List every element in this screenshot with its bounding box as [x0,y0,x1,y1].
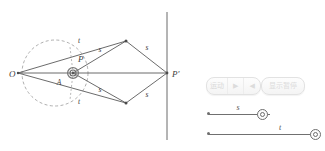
point-label-O: O [9,69,16,79]
play-forward-icon[interactable]: ▶ [228,78,244,94]
edge-label-t-0: t [78,36,81,45]
canvas-stage: OPP′ttssssA 运动 ▶ ◀ 显示暂停 s t [0,0,325,151]
slider-s-label: s [236,103,239,112]
vertex-dot-upper [125,40,128,43]
slider-t-handle[interactable] [310,129,321,140]
slider-s-handle[interactable] [257,109,268,120]
control-panel: 运动 ▶ ◀ 显示暂停 s t [203,74,325,151]
edge-label-s-5: s [146,90,149,99]
point-P-center-dot[interactable] [72,72,75,75]
animate-button-label[interactable]: 运动 [207,78,228,94]
slider-t-track[interactable] [208,134,320,135]
segment-O-to-lower-vertex [18,73,126,103]
edge-label-t-1: t [78,97,81,106]
edge-label-s-4: s [146,43,149,52]
animate-button-group[interactable]: 运动 ▶ ◀ [206,77,261,95]
vertex-dot-lower [125,102,128,105]
edge-label-a-6: A [56,78,62,87]
edge-label-s-3: s [99,85,102,94]
point-dot-O [17,72,19,74]
slider-t[interactable]: t [208,124,320,142]
edge-label-s-2: s [99,45,102,54]
slider-t-label: t [279,123,281,132]
point-dot-Pprime [166,72,169,75]
play-reverse-icon[interactable]: ◀ [244,78,259,94]
point-label-P: P [77,54,84,64]
show-pause-button[interactable]: 显示暂停 [261,77,305,95]
point-label-Pp: P′ [171,69,180,79]
helper-dash-upper [70,47,73,73]
slider-s[interactable]: s [208,104,270,122]
